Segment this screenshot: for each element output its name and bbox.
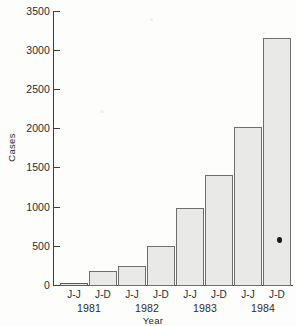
- bar-1982-jd[interactable]: [147, 246, 175, 286]
- bar-1981-jd[interactable]: [89, 271, 117, 286]
- bar-1982-jj[interactable]: [118, 266, 146, 286]
- bar-1984-jj[interactable]: [234, 127, 262, 286]
- ink-dot-icon: [277, 237, 282, 243]
- bar-chart: 3500 3000 2500 2000 1500 1000 500 0 Case…: [0, 0, 296, 326]
- bar-1983-jd[interactable]: [205, 175, 233, 286]
- x-group-label-1981: 1981: [59, 303, 119, 314]
- x-group-label-1983: 1983: [175, 303, 235, 314]
- x-group-label-1982: 1982: [117, 303, 177, 314]
- bar-1984-jd[interactable]: [263, 38, 291, 286]
- bar-1983-jj[interactable]: [176, 208, 204, 286]
- x-tick-label-1984-jd: J-D: [258, 289, 296, 300]
- bar-1981-jj[interactable]: [60, 283, 88, 286]
- bars-layer: [0, 0, 296, 326]
- x-group-label-1984: 1984: [233, 303, 293, 314]
- x-axis-title: Year: [118, 315, 188, 326]
